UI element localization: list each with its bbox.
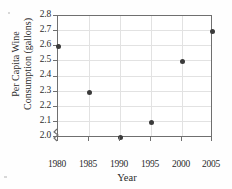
y-tick-label-2-8: 2.8 <box>40 10 51 20</box>
gridline-horizontal <box>58 60 211 61</box>
data-point-2005 <box>210 29 215 34</box>
chart-figure: Per Capita Wine Consumption (gallons) 2.… <box>0 0 232 189</box>
y-tick-label-2-5: 2.5 <box>40 55 51 65</box>
gridline-horizontal <box>58 121 211 122</box>
x-tick-mark-1995 <box>150 137 151 141</box>
x-tick-mark-2005 <box>211 137 212 141</box>
gridline-horizontal <box>58 30 211 31</box>
gridline-horizontal <box>58 106 211 107</box>
gridline-vertical <box>151 16 152 136</box>
x-tick-mark-1990 <box>119 137 120 141</box>
x-tick-mark-1980 <box>57 137 58 141</box>
scan-artifact <box>8 12 10 14</box>
x-tick-mark-1985 <box>88 137 89 141</box>
gridline-horizontal <box>58 45 211 46</box>
gridline-vertical <box>89 16 90 136</box>
y-tick-label-2-1: 2.1 <box>40 116 51 126</box>
data-point-1980 <box>56 44 61 49</box>
axis-break-icon <box>50 128 62 142</box>
y-tick-label-2-7: 2.7 <box>40 25 51 35</box>
x-tick-mark-2000 <box>181 137 182 141</box>
plot-area <box>57 15 212 137</box>
scan-artifact <box>4 176 7 178</box>
gridline-horizontal <box>58 76 211 77</box>
gridline-vertical <box>182 16 183 136</box>
y-tick-label-2-2: 2.2 <box>40 101 51 111</box>
x-tick-label-2005: 2005 <box>191 159 231 169</box>
y-tick-label-2-3: 2.3 <box>40 86 51 96</box>
y-tick-label-2-4: 2.4 <box>40 70 51 80</box>
y-axis-title-line-2: Consumption (gallons) <box>22 0 34 144</box>
y-tick-label-2-6: 2.6 <box>40 40 51 50</box>
x-axis-title: Year <box>0 172 232 184</box>
gridline-horizontal <box>58 91 211 92</box>
data-point-1985 <box>87 90 92 95</box>
y-axis-title-line-1: Per Capita Wine <box>10 0 22 144</box>
y-axis-title: Per Capita Wine Consumption (gallons) <box>10 0 34 144</box>
data-point-1995 <box>149 120 154 125</box>
data-point-2000 <box>180 59 185 64</box>
gridline-vertical <box>120 16 121 136</box>
